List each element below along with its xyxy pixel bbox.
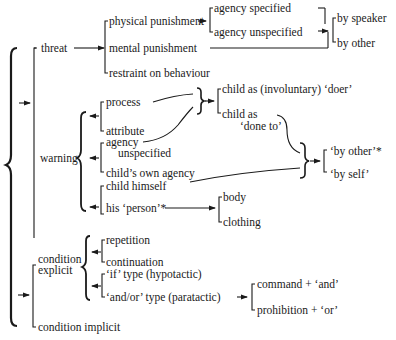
node-by-other-quoted: ‘by other’* xyxy=(330,145,382,157)
node-body: body xyxy=(223,191,246,203)
node-done-to: ‘done to’ xyxy=(240,120,282,132)
node-explicit: explicit xyxy=(38,264,73,276)
node-unspecified: unspecified xyxy=(118,147,171,159)
node-agency-specified: agency specified xyxy=(214,2,291,14)
node-restraint-on-behaviour: restraint on behaviour xyxy=(109,67,210,79)
node-repetition: repetition xyxy=(106,234,150,246)
node-his-person: his ‘person’* xyxy=(106,202,166,214)
node-child-involuntary-doer: child as (involuntary) ‘doer’ xyxy=(222,83,352,95)
node-clothing: clothing xyxy=(223,216,261,228)
node-threat: threat xyxy=(41,42,67,54)
node-mental-punishment: mental punishment xyxy=(109,42,197,54)
node-condition-implicit: condition implicit xyxy=(38,321,120,333)
node-by-speaker: by speaker xyxy=(337,12,387,24)
node-by-self-quoted: ‘by self’ xyxy=(330,168,369,180)
node-child-as: child as xyxy=(222,108,257,120)
node-agency-unspecified: agency unspecified xyxy=(214,26,302,38)
node-command-and: command + ‘and’ xyxy=(257,278,339,290)
diagram-canvas: threat physical punishment agency specif… xyxy=(0,0,396,340)
node-physical-punishment: physical punishment xyxy=(109,15,204,27)
node-warning: warning xyxy=(40,152,78,164)
node-continuation: continuation xyxy=(106,256,164,268)
node-childs-own-agency: child’s own agency xyxy=(106,167,195,179)
node-prohibition-or: prohibition + ‘or’ xyxy=(257,304,338,316)
node-process: process xyxy=(106,96,141,108)
node-and-or-type: ‘and/or’ type (paratactic) xyxy=(106,291,221,303)
node-if-type: ‘if’ type (hypotactic) xyxy=(106,268,202,280)
node-by-other: by other xyxy=(337,37,375,49)
node-child-himself: child himself xyxy=(106,180,166,192)
